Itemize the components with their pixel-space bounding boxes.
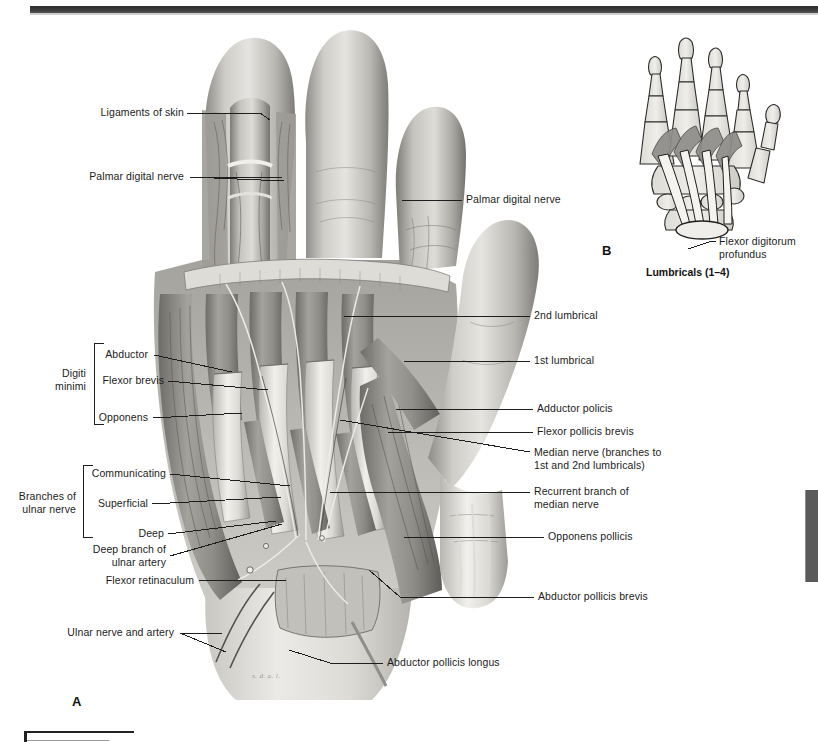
panel-a-letter: A <box>72 694 81 709</box>
label-ulnar-nerve-and-artery: Ulnar nerve and artery <box>42 626 174 639</box>
label-recurrent-branch-median-nerve: Recurrent branch of median nerve <box>534 485 684 510</box>
page-header-rule-shadow <box>30 13 818 15</box>
label-median-nerve: Median nerve (branches to 1st and 2nd lu… <box>534 446 714 471</box>
label-abductor-pollicis-longus: Abductor pollicis longus <box>387 656 557 669</box>
label-superficial: Superficial <box>90 497 148 510</box>
label-flexor-brevis: Flexor brevis <box>92 374 164 387</box>
page-header-rule <box>30 6 818 13</box>
label-palmar-digital-nerve-right: Palmar digital nerve <box>466 193 626 206</box>
label-adductor-policis: Adductor policis <box>537 402 667 415</box>
panel-b-letter: B <box>602 243 611 258</box>
panel-a-hand-dissection <box>110 22 570 702</box>
label-deep-branch-ulnar-artery: Deep branch of ulnar artery <box>60 543 166 568</box>
label-branches-ulnar-nerve-group: Branches of ulnar nerve <box>10 490 76 515</box>
label-2nd-lumbrical: 2nd lumbrical <box>534 309 654 322</box>
label-ligaments-of-skin: Ligaments of skin <box>60 106 184 119</box>
label-digiti-minimi-group: Digiti minimi <box>28 367 86 392</box>
page-edge-tab-marker <box>805 490 818 582</box>
label-palmar-digital-nerve-left: Palmar digital nerve <box>28 170 184 183</box>
panel-b-caption: Lumbricals (1–4) <box>646 266 729 278</box>
label-communicating: Communicating <box>90 467 166 480</box>
footer-rule <box>24 731 134 733</box>
label-flexor-digitorum-profundus: Flexor digitorum profundus <box>719 235 818 260</box>
footer-rule-secondary <box>27 740 109 741</box>
panel-b-skeleton-diagram <box>596 26 796 256</box>
artist-signature: s. d. a. l. <box>252 672 280 680</box>
label-opponens-pollicis: Opponens pollicis <box>548 530 688 543</box>
label-flexor-retinaculum: Flexor retinaculum <box>74 574 194 587</box>
label-opponens: Opponens <box>96 411 148 424</box>
label-abductor-pollicis-brevis: Abductor pollicis brevis <box>538 590 708 603</box>
label-deep: Deep <box>120 527 164 540</box>
label-abductor: Abductor <box>100 348 148 361</box>
label-1st-lumbrical: 1st lumbrical <box>534 354 654 367</box>
figure-page: s. d. a. l. <box>0 0 818 742</box>
label-flexor-pollicis-brevis: Flexor pollicis brevis <box>537 425 677 438</box>
